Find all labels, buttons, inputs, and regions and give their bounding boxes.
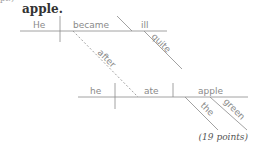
word-ate: ate (144, 86, 159, 96)
word-became: became (73, 20, 109, 30)
complement-slash (117, 16, 132, 31)
sentence-diagram: He became ill quite after he ate apple t… (0, 0, 254, 148)
word-he-sub: he (90, 86, 102, 96)
word-ill: ill (141, 20, 149, 30)
word-he-main: He (33, 20, 46, 30)
word-the: the (199, 100, 217, 118)
word-quite: quite (150, 31, 174, 55)
word-apple: apple (198, 86, 223, 96)
word-after: after (96, 47, 118, 69)
points-label: (19 points) (199, 132, 248, 142)
word-green: green (222, 96, 247, 121)
